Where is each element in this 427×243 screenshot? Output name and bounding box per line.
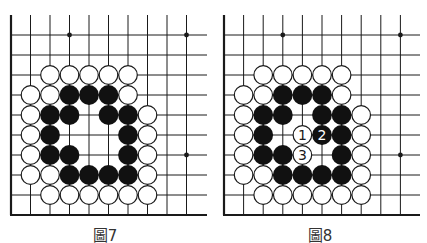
white-stone [352,166,371,185]
white-stone [332,86,351,105]
black-stone [253,145,273,165]
numbered-white-stone-1: 1 [293,126,312,145]
white-stone [234,166,253,185]
white-stone [352,106,371,125]
svg-text:3: 3 [298,147,307,163]
star-point-icon [398,33,403,38]
black-stone [312,165,332,185]
black-stone [293,165,313,185]
svg-text:1: 1 [298,127,307,143]
black-stone [332,165,352,185]
white-stone [313,186,332,205]
white-stone [293,66,312,85]
white-stone [254,66,273,85]
black-stone [253,125,273,145]
star-point-icon [280,33,285,38]
black-stone [273,165,293,185]
svg-text:2: 2 [318,127,327,143]
white-stone [234,86,253,105]
black-stone [273,85,293,105]
black-stone [332,125,352,145]
star-point-icon [398,153,403,158]
black-stone [273,105,293,125]
white-stone [274,186,293,205]
white-stone [234,146,253,165]
white-stone [254,186,273,205]
numbered-white-stone-3: 3 [293,146,312,165]
white-stone [332,66,351,85]
figure-8-caption: 圖8 [290,224,350,243]
go-board-8-svg: 123 [0,0,427,220]
white-stone [352,126,371,145]
figure-7-caption: 圖7 [75,224,135,243]
white-stone [352,146,371,165]
black-stone [312,85,332,105]
white-stone [274,66,293,85]
white-stone [352,186,371,205]
black-stone [293,85,313,105]
black-stone [332,145,352,165]
black-stone [253,105,273,125]
white-stone [234,106,253,125]
white-stone [332,186,351,205]
white-stone [234,126,253,145]
black-stone [312,105,332,125]
numbered-black-stone-2: 2 [312,125,332,145]
white-stone [254,86,273,105]
white-stone [254,166,273,185]
black-stone [332,105,352,125]
white-stone [313,66,332,85]
white-stone [293,186,312,205]
black-stone [273,145,293,165]
